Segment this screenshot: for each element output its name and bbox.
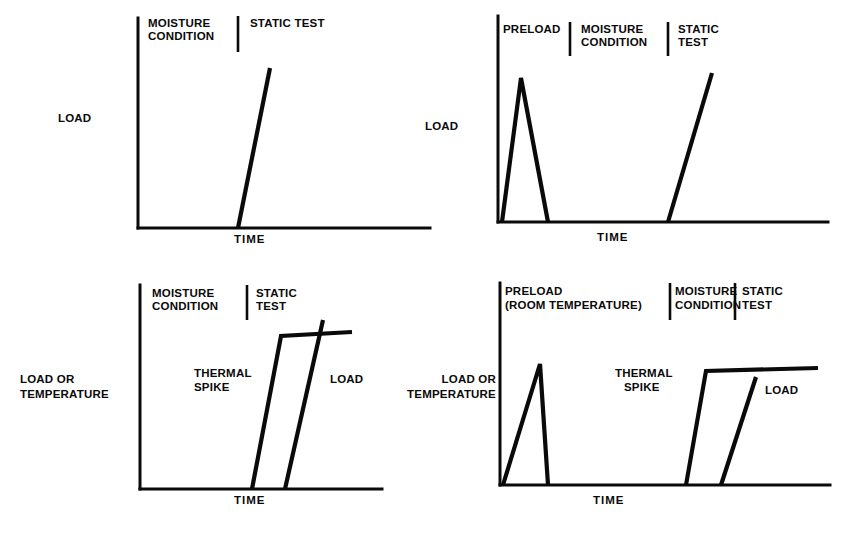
phase-label-preload-line1: PRELOAD xyxy=(505,285,563,297)
figure-root: MOISTURE CONDITION STATIC TEST LOAD TIME… xyxy=(0,0,845,535)
series-load-curve xyxy=(285,320,323,489)
inplot-label-load: LOAD xyxy=(330,373,363,385)
phase-label-moisture-line2: CONDITION xyxy=(152,300,218,312)
panel-bottom-right: PRELOAD (ROOM TEMPERATURE) MOISTURE COND… xyxy=(420,262,845,535)
panel-bottom-left: MOISTURE CONDITION STATIC TEST LOAD OR T… xyxy=(0,262,430,535)
x-axis-label: TIME xyxy=(234,233,265,245)
phase-label-moisture-line1: MOISTURE xyxy=(152,287,214,299)
x-axis-label: TIME xyxy=(597,231,628,243)
y-axis-label: LOAD xyxy=(58,112,91,124)
phase-label-static-line2: TEST xyxy=(742,299,772,311)
inplot-label-thermal-line1: THERMAL xyxy=(194,367,252,379)
series-static-test-curve xyxy=(668,73,712,222)
y-axis-label-line2: TEMPERATURE xyxy=(407,388,496,400)
phase-label-static-line1: STATIC xyxy=(742,285,783,297)
x-axis-label: TIME xyxy=(234,494,265,506)
phase-label-static-line2: TEST xyxy=(678,36,708,48)
y-axis-label-line1: LOAD OR xyxy=(20,373,75,385)
phase-label-static-line1: STATIC xyxy=(678,23,719,35)
phase-label-moisture-line2: CONDITION xyxy=(675,299,741,311)
phase-label-moisture-line2: CONDITION xyxy=(581,36,647,48)
phase-label-static-line2: TEST xyxy=(256,300,286,312)
y-axis-label: LOAD xyxy=(425,120,458,132)
series-preload-curve xyxy=(502,78,548,222)
phase-label-moisture-line1: MOISTURE xyxy=(148,17,210,29)
inplot-label-thermal-line1: THERMAL xyxy=(615,367,673,379)
panel-top-right: PRELOAD MOISTURE CONDITION STATIC TEST L… xyxy=(420,0,845,262)
panel-top-left-svg: MOISTURE CONDITION STATIC TEST LOAD TIME xyxy=(0,0,430,262)
y-axis-label-line2: TEMPERATURE xyxy=(20,388,109,400)
phase-label-moisture-line2: CONDITION xyxy=(148,30,214,42)
inplot-label-thermal-line2: SPIKE xyxy=(194,381,230,393)
phase-label-moisture-line1: MOISTURE xyxy=(675,285,737,297)
panel-top-right-svg: PRELOAD MOISTURE CONDITION STATIC TEST L… xyxy=(420,0,845,262)
series-static-test-curve xyxy=(238,68,270,228)
phase-label-static-test: STATIC TEST xyxy=(250,17,325,29)
phase-label-preload-line2: (ROOM TEMPERATURE) xyxy=(505,299,642,311)
panel-top-left: MOISTURE CONDITION STATIC TEST LOAD TIME xyxy=(0,0,430,262)
panel-bottom-right-svg: PRELOAD (ROOM TEMPERATURE) MOISTURE COND… xyxy=(420,262,845,535)
panel-bottom-left-svg: MOISTURE CONDITION STATIC TEST LOAD OR T… xyxy=(0,262,430,535)
y-axis-label-line1: LOAD OR xyxy=(442,373,497,385)
x-axis-label: TIME xyxy=(593,494,624,506)
inplot-label-thermal-line2: SPIKE xyxy=(624,381,660,393)
inplot-label-load: LOAD xyxy=(765,384,798,396)
series-load-curve xyxy=(721,377,756,485)
phase-label-moisture-line1: MOISTURE xyxy=(581,23,643,35)
series-preload-curve xyxy=(503,364,548,485)
phase-label-preload: PRELOAD xyxy=(503,23,561,35)
phase-label-static-line1: STATIC xyxy=(256,287,297,299)
